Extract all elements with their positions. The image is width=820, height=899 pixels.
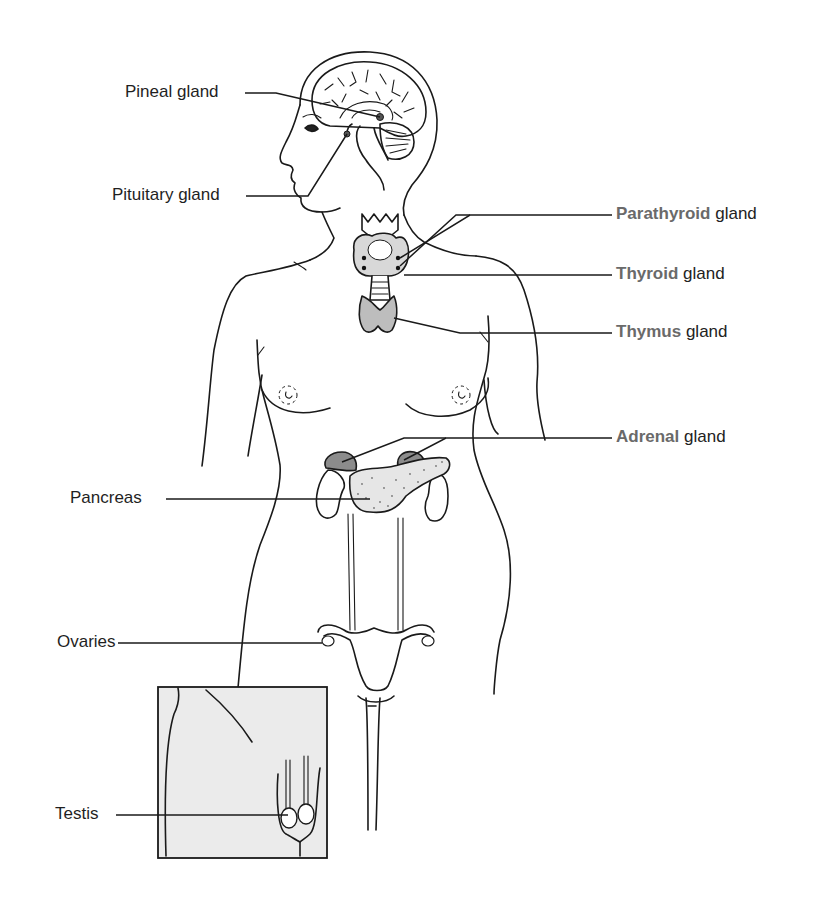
label-parathyroid-gland: Parathyroid gland <box>616 204 757 224</box>
label-parathyroid-rest: gland <box>710 204 756 223</box>
label-thyroid-gland: Thyroid gland <box>616 264 725 284</box>
label-pancreas: Pancreas <box>70 488 142 508</box>
label-adrenal-rest: gland <box>679 427 725 446</box>
label-parathyroid-highlight: Parathyroid <box>616 204 710 223</box>
label-thyroid-highlight: Thyroid <box>616 264 678 283</box>
label-testis: Testis <box>55 804 98 824</box>
reproductive-female <box>318 625 434 706</box>
label-pineal-gland: Pineal gland <box>125 82 219 102</box>
label-thyroid-rest: gland <box>678 264 724 283</box>
label-thymus-gland: Thymus gland <box>616 322 728 342</box>
body-illustration <box>0 0 820 899</box>
testis-inset <box>158 687 327 858</box>
label-pituitary-gland: Pituitary gland <box>112 185 220 205</box>
abdominal-glands <box>316 452 449 630</box>
label-thymus-rest: gland <box>681 322 727 341</box>
endocrine-diagram: Pineal gland Pituitary gland Pancreas Ov… <box>0 0 820 899</box>
neck-glands <box>354 214 409 332</box>
label-adrenal-highlight: Adrenal <box>616 427 679 446</box>
label-ovaries: Ovaries <box>57 632 116 652</box>
label-thymus-highlight: Thymus <box>616 322 681 341</box>
label-adrenal-gland: Adrenal gland <box>616 427 726 447</box>
